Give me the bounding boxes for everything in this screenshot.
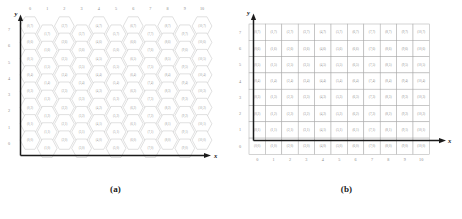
hexagon-cell[interactable]: (4,2)	[89, 98, 109, 116]
hexagon-cell[interactable]: (4,1)	[89, 115, 109, 133]
hexagon-cell[interactable]: (9,7)	[175, 25, 195, 43]
square-cell[interactable]: (4,4)	[315, 73, 331, 89]
square-cell[interactable]: (8,5)	[380, 57, 396, 73]
square-cell[interactable]: (3,1)	[298, 122, 314, 138]
hexagon-cell[interactable]: (9,2)	[175, 106, 195, 124]
square-cell[interactable]: (1,5)	[265, 57, 281, 73]
hexagon-cell[interactable]: (6,6)	[123, 33, 143, 51]
hexagon-cell[interactable]: (1,5)	[37, 58, 57, 76]
square-cell[interactable]: (7,5)	[364, 57, 380, 73]
square-cell[interactable]: (10,5)	[413, 57, 429, 73]
square-cell[interactable]: (7,4)	[364, 73, 380, 89]
hexagon-cell[interactable]: (7,3)	[141, 90, 161, 108]
square-cell[interactable]: (6,6)	[347, 40, 363, 56]
square-cell[interactable]: (5,1)	[331, 122, 347, 138]
hexagon-cell[interactable]: (10,3)	[192, 82, 212, 100]
hexagon-cell[interactable]: (3,7)	[72, 25, 92, 43]
square-cell[interactable]: (1,2)	[265, 106, 281, 122]
square-cell[interactable]: (5,2)	[331, 106, 347, 122]
square-cell[interactable]: (3,3)	[298, 89, 314, 105]
square-cell[interactable]: (7,3)	[364, 89, 380, 105]
square-cell[interactable]: (5,3)	[331, 89, 347, 105]
hexagon-cell[interactable]: (6,7)	[123, 17, 143, 35]
square-cell[interactable]: (3,7)	[298, 24, 314, 40]
hexagon-cell[interactable]: (0,3)	[20, 82, 40, 100]
hexagon-cell[interactable]: (10,5)	[192, 49, 212, 67]
square-cell[interactable]: (9,7)	[397, 24, 413, 40]
square-cell[interactable]: (3,4)	[298, 73, 314, 89]
square-cell[interactable]: (10,4)	[413, 73, 429, 89]
hexagon-cell[interactable]: (5,3)	[106, 90, 126, 108]
hexagon-cell[interactable]: (10,2)	[192, 98, 212, 116]
square-cell[interactable]: (4,2)	[315, 106, 331, 122]
hexagon-cell[interactable]: (5,7)	[106, 25, 126, 43]
square-cell[interactable]: (5,6)	[331, 40, 347, 56]
square-cell[interactable]: (7,6)	[364, 40, 380, 56]
hexagon-cell[interactable]: (2,7)	[55, 17, 75, 35]
hexagon-cell[interactable]: (8,7)	[158, 17, 178, 35]
hexagon-cell[interactable]: (7,2)	[141, 106, 161, 124]
square-cell[interactable]: (6,4)	[347, 73, 363, 89]
square-cell[interactable]: (7,2)	[364, 106, 380, 122]
hexagon-cell[interactable]: (9,5)	[175, 58, 195, 76]
hexagon-cell[interactable]: (0,0)	[20, 131, 40, 149]
square-cell[interactable]: (9,6)	[397, 40, 413, 56]
hexagon-cell[interactable]: (4,6)	[89, 33, 109, 51]
hexagon-cell[interactable]: (1,6)	[37, 41, 57, 59]
square-cell[interactable]: (4,6)	[315, 40, 331, 56]
hexagon-cell[interactable]: (6,5)	[123, 49, 143, 67]
hexagon-cell[interactable]: (6,1)	[123, 115, 143, 133]
hexagon-cell[interactable]: (8,4)	[158, 66, 178, 84]
hexagon-cell[interactable]: (3,3)	[72, 90, 92, 108]
hexagon-cell[interactable]: (0,7)	[20, 17, 40, 35]
square-cell[interactable]: (8,4)	[380, 73, 396, 89]
hexagon-cell[interactable]: (3,6)	[72, 41, 92, 59]
square-cell[interactable]: (0,4)	[249, 73, 265, 89]
square-cell[interactable]: (10,3)	[413, 89, 429, 105]
square-cell[interactable]: (7,1)	[364, 122, 380, 138]
hexagon-cell[interactable]: (2,5)	[55, 49, 75, 67]
hexagon-cell[interactable]: (4,3)	[89, 82, 109, 100]
hexagon-cell[interactable]: (8,0)	[158, 131, 178, 149]
square-cell[interactable]: (0,6)	[249, 40, 265, 56]
hexagon-cell[interactable]: (5,2)	[106, 106, 126, 124]
square-cell[interactable]: (3,6)	[298, 40, 314, 56]
hexagon-cell[interactable]: (0,2)	[20, 98, 40, 116]
square-cell[interactable]: (1,3)	[265, 89, 281, 105]
hexagon-cell[interactable]: (4,4)	[89, 66, 109, 84]
hexagon-cell[interactable]: (7,5)	[141, 58, 161, 76]
hexagon-cell[interactable]: (0,1)	[20, 115, 40, 133]
square-cell[interactable]: (9,3)	[397, 89, 413, 105]
square-cell[interactable]: (1,7)	[265, 24, 281, 40]
hexagon-cell[interactable]: (10,1)	[192, 115, 212, 133]
square-cell[interactable]: (2,1)	[282, 122, 298, 138]
hexagon-cell[interactable]: (5,0)	[106, 139, 126, 157]
square-cell[interactable]: (4,5)	[315, 57, 331, 73]
hexagon-cell[interactable]: (10,7)	[192, 17, 212, 35]
square-cell[interactable]: (10,2)	[413, 106, 429, 122]
square-cell[interactable]: (8,6)	[380, 40, 396, 56]
square-cell[interactable]: (9,2)	[397, 106, 413, 122]
square-cell[interactable]: (3,5)	[298, 57, 314, 73]
hexagon-cell[interactable]: (4,0)	[89, 131, 109, 149]
hexagon-cell[interactable]: (2,3)	[55, 82, 75, 100]
hexagon-cell[interactable]: (0,4)	[20, 66, 40, 84]
square-cell[interactable]: (1,6)	[265, 40, 281, 56]
hexagon-cell[interactable]: (0,6)	[20, 33, 40, 51]
hexagon-cell[interactable]: (8,5)	[158, 49, 178, 67]
square-cell[interactable]: (2,3)	[282, 89, 298, 105]
hexagon-cell[interactable]: (2,6)	[55, 33, 75, 51]
square-cell[interactable]: (7,7)	[364, 24, 380, 40]
hexagon-cell[interactable]: (6,3)	[123, 82, 143, 100]
square-cell[interactable]: (2,4)	[282, 73, 298, 89]
square-cell[interactable]: (8,1)	[380, 122, 396, 138]
hexagon-cell[interactable]: (9,1)	[175, 123, 195, 141]
hexagon-cell[interactable]: (7,4)	[141, 74, 161, 92]
square-cell[interactable]: (2,6)	[282, 40, 298, 56]
square-cell[interactable]: (6,1)	[347, 122, 363, 138]
square-cell[interactable]: (6,3)	[347, 89, 363, 105]
hexagon-cell[interactable]: (1,7)	[37, 25, 57, 43]
square-cell[interactable]: (6,2)	[347, 106, 363, 122]
hexagon-cell[interactable]: (0,5)	[20, 49, 40, 67]
square-cell[interactable]: (2,5)	[282, 57, 298, 73]
